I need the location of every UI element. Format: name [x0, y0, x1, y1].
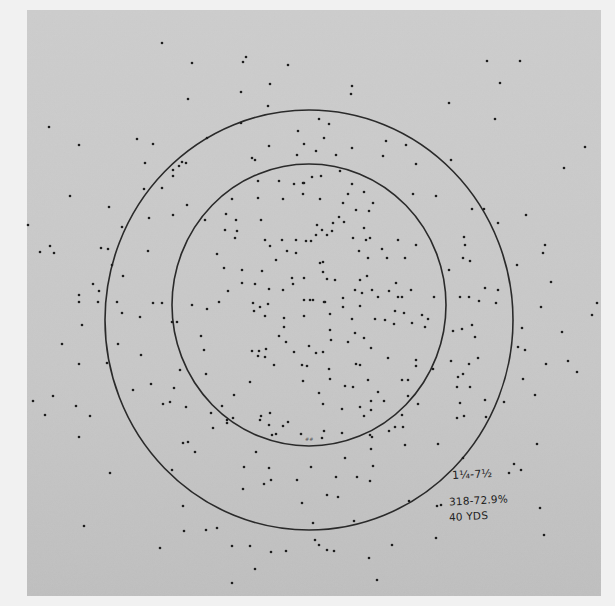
pellet-hole	[371, 289, 374, 292]
pellet-hole	[315, 150, 318, 153]
pellet-hole	[372, 202, 375, 205]
pellet-hole	[235, 219, 238, 222]
pellet-hole	[448, 269, 451, 272]
pellet-hole	[269, 412, 272, 415]
pellet-hole	[240, 91, 243, 94]
pellet-hole	[395, 282, 398, 285]
annotation-distance: 40 YDS	[449, 509, 489, 523]
pellet-hole	[258, 350, 261, 353]
pellet-hole	[521, 327, 524, 330]
pellet-hole	[456, 417, 459, 420]
pellet-hole	[370, 409, 373, 412]
pellet-hole	[363, 191, 366, 194]
pellet-hole	[260, 219, 263, 222]
pellet-hole	[300, 433, 303, 436]
pellet-hole	[271, 434, 274, 437]
pellet-hole	[497, 222, 500, 225]
pellet-hole	[591, 314, 594, 317]
pellet-hole	[433, 296, 436, 299]
pellet-hole	[292, 283, 295, 286]
pellet-hole	[61, 343, 64, 346]
pellet-hole	[415, 365, 418, 368]
pellet-hole	[326, 278, 329, 281]
pellet-hole	[337, 496, 340, 499]
pellet-hole	[352, 237, 355, 240]
pellet-hole	[516, 264, 519, 267]
pellet-hole	[98, 290, 101, 293]
pellet-hole	[464, 244, 467, 247]
pellet-hole	[368, 210, 371, 213]
pellet-hole	[421, 314, 424, 317]
pellet-hole	[223, 267, 226, 270]
pellet-hole	[253, 310, 256, 313]
pellet-hole	[584, 146, 587, 149]
pellet-hole	[187, 441, 190, 444]
pellet-hole	[282, 289, 285, 292]
pellet-hole	[191, 62, 194, 65]
pellet-hole	[486, 60, 489, 63]
pattern-sheet-photo	[0, 0, 615, 606]
pellet-hole	[205, 529, 208, 532]
pellet-hole	[352, 386, 355, 389]
pellet-hole	[226, 422, 229, 425]
pellet-hole	[161, 302, 164, 305]
pellet-hole	[122, 275, 125, 278]
pellet-hole	[231, 582, 234, 585]
pellet-hole	[83, 525, 86, 528]
pellet-hole	[323, 301, 326, 304]
pellet-hole	[297, 130, 300, 133]
pellet-hole	[484, 399, 487, 402]
pellet-hole	[255, 451, 258, 454]
pellet-hole	[242, 488, 245, 491]
pellet-hole	[161, 42, 164, 45]
pellet-hole	[435, 195, 438, 198]
pellet-hole	[226, 419, 229, 422]
pellet-hole	[249, 381, 252, 384]
pellet-hole	[335, 476, 338, 479]
pellet-hole	[462, 373, 465, 376]
pellet-hole	[415, 359, 418, 362]
pellet-hole	[227, 290, 230, 293]
pellet-hole	[116, 301, 119, 304]
pellet-hole	[139, 316, 142, 319]
pellet-hole	[499, 82, 502, 85]
pellet-hole	[407, 395, 410, 398]
pellet-hole	[78, 294, 81, 297]
pellet-hole	[457, 376, 460, 379]
pellet-hole	[147, 250, 150, 253]
pellet-hole	[370, 448, 373, 451]
pellet-hole	[330, 339, 333, 342]
pellet-hole	[367, 379, 370, 382]
pellet-hole	[333, 550, 336, 553]
pellet-hole	[355, 363, 358, 366]
pellet-hole	[382, 155, 385, 158]
pellet-hole	[383, 400, 386, 403]
pellet-hole	[285, 341, 288, 344]
pellet-hole	[224, 229, 227, 232]
pellet-hole	[200, 335, 203, 338]
pellet-hole	[401, 414, 404, 417]
pellet-hole	[335, 154, 338, 157]
pellet-hole	[78, 363, 81, 366]
pellet-hole	[264, 239, 267, 242]
pellet-hole	[181, 161, 184, 164]
center-pencil-mark: ##	[305, 437, 313, 442]
pellet-hole	[542, 252, 545, 255]
pellet-hole	[169, 401, 172, 404]
pellet-hole	[394, 310, 397, 313]
pellet-hole	[331, 230, 334, 233]
pellet-hole	[252, 302, 255, 305]
pellet-hole	[121, 312, 124, 315]
pellet-hole	[287, 421, 290, 424]
pellet-hole	[440, 504, 443, 507]
pellet-hole	[264, 315, 267, 318]
pellet-hole	[544, 244, 547, 247]
pellet-hole	[301, 502, 304, 505]
pellet-hole	[338, 216, 341, 219]
pellet-hole	[344, 385, 347, 388]
pellet-hole	[397, 296, 400, 299]
pellet-hole	[295, 239, 298, 242]
pellet-hole	[303, 143, 306, 146]
pellet-hole	[417, 403, 420, 406]
pellet-hole	[278, 180, 281, 183]
